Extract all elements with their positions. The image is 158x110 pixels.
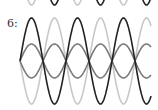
previous-figure-fragment: [20, 0, 151, 5]
wave-dark: [20, 18, 151, 104]
wave-light: [20, 18, 151, 104]
sine-waves: [20, 18, 151, 104]
wave-medium-mirror: [20, 44, 151, 78]
fragment-wave: [20, 0, 151, 5]
wave-medium: [20, 44, 151, 78]
fragment-wave: [20, 0, 151, 5]
wave-diagram: [0, 0, 158, 110]
